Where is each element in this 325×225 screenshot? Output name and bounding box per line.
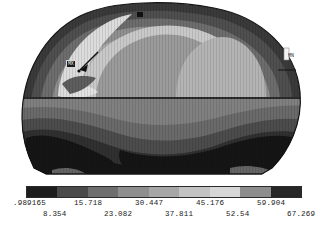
colorbar-tick-label-5: 37.811 bbox=[165, 209, 193, 219]
colorbar-tick-label-0: .989165 bbox=[13, 198, 46, 208]
colorbar-tick-label-3: 23.082 bbox=[104, 209, 132, 219]
colorbar-tick-row-lower: 8.35423.08237.81152.5467.269 bbox=[0, 209, 325, 221]
colorbar-band-7 bbox=[240, 187, 270, 197]
colorbar-band-0 bbox=[27, 187, 57, 197]
colorbar-band-1 bbox=[57, 187, 87, 197]
colorbar-tick-label-9: 67.269 bbox=[287, 209, 315, 219]
contour-plot-svg bbox=[0, 0, 325, 182]
colorbar-tick-label-2: 15.718 bbox=[74, 198, 102, 208]
min-value-tag: MN bbox=[288, 53, 294, 59]
colorbar-tick-label-6: 45.176 bbox=[196, 198, 224, 208]
colorbar-band-4 bbox=[149, 187, 179, 197]
contour-legend: .98916515.71830.44745.17659.904 8.35423.… bbox=[0, 182, 325, 225]
contour-bands-group bbox=[0, 0, 325, 182]
contour-plot-area: MX MN bbox=[0, 0, 325, 182]
colorbar-band-5 bbox=[179, 187, 209, 197]
colorbar-band-6 bbox=[210, 187, 240, 197]
mx-node-dot bbox=[77, 69, 80, 72]
max-value-tag: MX bbox=[66, 60, 76, 68]
colorbar-band-8 bbox=[271, 187, 301, 197]
fea-contour-screenshot: MX MN .98916515.71830.44745.17659.904 8.… bbox=[0, 0, 325, 225]
colorbar-tick-label-7: 52.54 bbox=[226, 209, 250, 219]
colorbar-tick-label-8: 59.904 bbox=[257, 198, 285, 208]
colorbar-tick-label-4: 30.447 bbox=[135, 198, 163, 208]
colorbar-tick-label-1: 8.354 bbox=[43, 209, 67, 219]
colorbar-band-3 bbox=[118, 187, 148, 197]
top-node-marker bbox=[137, 12, 143, 17]
contour-color-bar bbox=[26, 186, 302, 198]
colorbar-band-2 bbox=[88, 187, 118, 197]
mesh-overlay bbox=[0, 0, 325, 182]
